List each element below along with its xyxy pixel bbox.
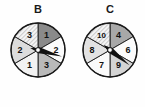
- spinner-c: C4697810: [0, 0, 145, 107]
- spinner-sector-value: 4: [116, 30, 121, 40]
- spinner-sector-value: 8: [89, 45, 94, 55]
- spinner-sector-value: 10: [97, 31, 106, 40]
- spinner-hub: [108, 48, 113, 53]
- spinner-sector-value: 7: [99, 60, 104, 70]
- spinner-label-c: C: [100, 4, 120, 15]
- figure-canvas: B123123C4697810: [0, 0, 145, 107]
- spinner-wheel-c[interactable]: 4697810: [81, 21, 139, 79]
- spinner-sector-value: 9: [116, 60, 121, 70]
- spinner-sector-value: 6: [125, 45, 130, 55]
